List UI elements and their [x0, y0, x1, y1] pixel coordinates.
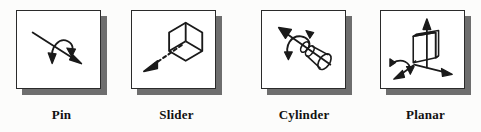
cube-spoke-left — [169, 41, 186, 51]
panel-card-pin — [16, 10, 101, 89]
joint-types-figure: Pin Slider Cylinder Planar — [0, 0, 481, 132]
caption-cylinder: Cylinder — [255, 107, 353, 123]
right-axis-line — [414, 65, 445, 73]
panel-card-cylinder — [261, 10, 346, 89]
left-axis-arrowhead — [394, 70, 405, 79]
plate-face-top — [413, 30, 438, 57]
caption-planar: Planar — [380, 107, 471, 123]
rotation-arrowhead — [306, 30, 314, 38]
planar-joint-icon — [381, 11, 464, 88]
right-axis-arrowhead — [442, 69, 453, 77]
caption-slider: Slider — [131, 107, 222, 123]
dashed-translation-arrowhead — [144, 61, 158, 72]
cube-spoke-right — [186, 41, 203, 51]
rotation-arrowhead — [390, 59, 396, 67]
vertical-axis-arrowhead — [423, 19, 431, 30]
caption-pin: Pin — [16, 107, 107, 123]
cylinder-cap-far — [315, 51, 334, 71]
rotation-arrowhead — [48, 53, 56, 64]
rotation-arrowhead-secondary — [284, 52, 292, 60]
panel-card-slider — [131, 10, 216, 89]
plate-face-front — [413, 32, 435, 62]
panel-card-planar — [380, 10, 465, 89]
slider-joint-icon — [132, 11, 215, 88]
pin-joint-icon — [17, 11, 100, 88]
cylinder-joint-icon — [262, 11, 345, 88]
